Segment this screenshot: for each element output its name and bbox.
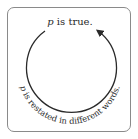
circular-reasoning-diagram: p is true. p is restated in different wo… [0, 0, 138, 139]
bottom-label: p is restated in different words. [18, 84, 122, 126]
cycle-arrow [27, 31, 117, 112]
top-label: p is true. [47, 16, 92, 27]
